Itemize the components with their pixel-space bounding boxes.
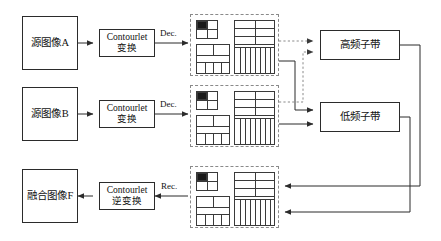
mid-grid-vline-1-b — [205, 133, 206, 144]
contourlet-transform-a-box[interactable]: Contourlet 变换 — [99, 29, 155, 57]
mid-grid-hline-1-a — [197, 55, 229, 56]
contourlet-transform-a-label-line2: 变换 — [117, 43, 137, 54]
coarse-quad-hline-b — [197, 100, 217, 101]
fine-grid-stripe-5-b — [260, 119, 261, 144]
fine-grid-stripe-7-a — [270, 48, 271, 73]
fine-grid-stripe-1-fused — [240, 200, 241, 225]
fine-grid-stripe-2-fused — [245, 200, 246, 225]
fused-image-f-box[interactable]: 融合图像F — [22, 169, 78, 223]
mid-grid-vline-mid-b — [213, 116, 214, 126]
decomp-panel-fused-inner — [194, 170, 275, 224]
mid-grid-vline-3-a — [221, 62, 222, 73]
fine-grid-stripe-3-b — [250, 119, 251, 144]
source-image-a-label: 源图像A — [31, 37, 69, 49]
contourlet-inverse-label-line2: 逆变换 — [112, 196, 142, 207]
mid-grid-vline-3-b — [221, 133, 222, 144]
coarse-quad-hline-fused — [197, 181, 217, 182]
decomp-panel-a-inner — [194, 18, 275, 72]
fused-image-f-label: 融合图像F — [27, 190, 74, 202]
fine-grid-stripe-5-fused — [260, 200, 261, 225]
mid-grid-vline-3-fused — [221, 214, 222, 225]
high-frequency-subband-label: 高频子带 — [340, 39, 380, 51]
fine-grid-stripe-4-b — [255, 119, 256, 144]
fine-grid-hline-3-a — [235, 44, 274, 45]
fine-grid-stripe-6-a — [265, 48, 266, 73]
contourlet-inverse-label-line1: Contourlet — [107, 185, 148, 196]
mid-grid-hline-1-fused — [197, 207, 229, 208]
contourlet-inverse-transform-box[interactable]: Contourlet 逆变换 — [99, 182, 155, 210]
decomp-panel-fused[interactable] — [190, 166, 279, 228]
rec-label: Rec. — [161, 181, 177, 191]
coarse-quad-hline-a — [197, 29, 217, 30]
coarse-quad-black-cell-b — [197, 92, 207, 100]
fine-grid-upper-vline-b — [255, 92, 256, 115]
fine-grid-stripe-2-a — [245, 48, 246, 73]
fine-grid-stripe-4-fused — [255, 200, 256, 225]
decomp-panel-b[interactable] — [190, 85, 279, 147]
fine-grid-upper-vline-fused — [255, 173, 256, 196]
mid-grid-vline-1-a — [205, 62, 206, 73]
fine-grid-stripe-5-a — [260, 48, 261, 73]
mid-grid-hline-1-b — [197, 126, 229, 127]
fine-grid-upper-vline-a — [255, 21, 256, 44]
coarse-quad-black-cell-fused — [197, 173, 207, 181]
mid-grid-vline-1-fused — [205, 214, 206, 225]
mid-grid-vline-mid-a — [213, 45, 214, 55]
fine-grid-stripe-3-a — [250, 48, 251, 73]
fine-grid-stripe-6-b — [265, 119, 266, 144]
contourlet-transform-b-box[interactable]: Contourlet 变换 — [99, 100, 155, 128]
fine-grid-stripe-6-fused — [265, 200, 266, 225]
fine-grid-stripe-3-fused — [250, 200, 251, 225]
fine-grid-stripe-4-a — [255, 48, 256, 73]
fine-grid-stripe-1-a — [240, 48, 241, 73]
fine-grid-stripe-2-b — [245, 119, 246, 144]
high-frequency-subband-box[interactable]: 高频子带 — [320, 30, 400, 60]
fine-grid-hline-3-fused — [235, 196, 274, 197]
mid-grid-vline-2-a — [213, 62, 214, 73]
source-image-b-label: 源图像B — [31, 108, 69, 120]
low-frequency-subband-box[interactable]: 低频子带 — [320, 102, 400, 132]
dec-label-b: Dec. — [160, 99, 177, 109]
contourlet-transform-b-label-line2: 变换 — [117, 114, 137, 125]
source-image-b-box[interactable]: 源图像B — [22, 87, 78, 141]
contourlet-transform-a-label-line1: Contourlet — [107, 32, 148, 43]
mid-grid-vline-2-b — [213, 133, 214, 144]
source-image-a-box[interactable]: 源图像A — [22, 16, 78, 70]
fine-grid-stripe-7-b — [270, 119, 271, 144]
fine-grid-stripe-7-fused — [270, 200, 271, 225]
diagram-canvas: 源图像A 源图像B 融合图像F Contourlet 变换 Contourlet… — [0, 0, 441, 241]
mid-grid-vline-mid-fused — [213, 197, 214, 207]
contourlet-transform-b-label-line1: Contourlet — [107, 103, 148, 114]
fine-grid-hline-3-b — [235, 115, 274, 116]
low-frequency-subband-label: 低频子带 — [340, 111, 380, 123]
mid-grid-vline-2-fused — [213, 214, 214, 225]
coarse-quad-black-cell-a — [197, 21, 207, 29]
decomp-panel-b-inner — [194, 89, 275, 143]
dec-label-a: Dec. — [160, 28, 177, 38]
decomp-panel-a[interactable] — [190, 14, 279, 76]
fine-grid-stripe-1-b — [240, 119, 241, 144]
